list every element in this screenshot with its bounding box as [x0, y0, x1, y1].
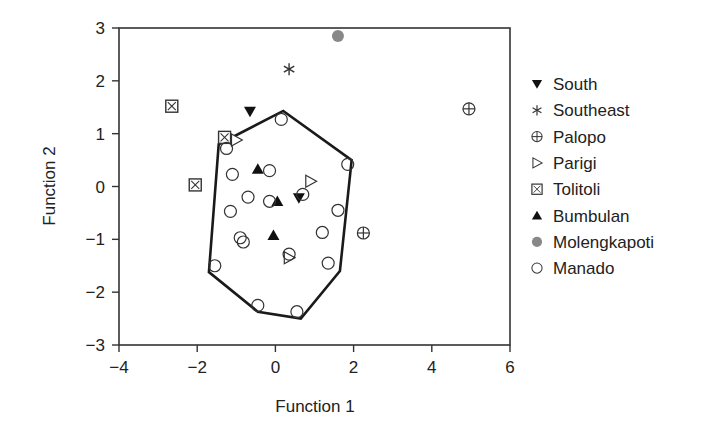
point-south — [244, 107, 256, 118]
legend-item-southeast: Southeast — [533, 101, 630, 120]
legend-label: Parigi — [553, 154, 596, 173]
x-tick-label: −2 — [188, 358, 207, 377]
legend-label: Manado — [553, 259, 614, 278]
point-palopo — [357, 227, 369, 239]
legend-label: Molengkapoti — [553, 233, 654, 252]
x-tick-label: 0 — [271, 358, 280, 377]
point-tolitoli — [166, 100, 178, 112]
point-bumbulan — [252, 163, 264, 174]
y-tick-label: −3 — [86, 336, 105, 355]
manado-marker-icon — [532, 263, 542, 273]
legend-item-parigi: Parigi — [533, 154, 597, 173]
plot-area-border — [119, 28, 510, 345]
y-tick-label: 2 — [96, 72, 105, 91]
legend-item-south: South — [532, 75, 598, 94]
point-manado — [316, 226, 328, 238]
legend-label: Tolitoli — [553, 180, 600, 199]
legend-label: Palopo — [553, 128, 606, 147]
point-molengkapoti — [332, 30, 344, 42]
point-manado — [264, 195, 276, 207]
legend-item-molengkapoti: Molengkapoti — [532, 233, 654, 252]
y-tick-label: 3 — [96, 19, 105, 38]
y-tick-label: 0 — [96, 178, 105, 197]
south-marker-icon — [532, 80, 542, 89]
point-parigi — [306, 175, 317, 187]
southeast-marker-icon — [533, 105, 542, 115]
x-tick-label: −4 — [109, 358, 128, 377]
legend-item-manado: Manado — [532, 259, 615, 278]
point-manado — [252, 299, 264, 311]
point-southeast — [284, 63, 294, 75]
y-axis-label: Function 2 — [40, 146, 59, 225]
legend-label: Southeast — [553, 101, 630, 120]
plot-frame — [119, 28, 510, 345]
parigi-marker-icon — [533, 158, 542, 168]
point-manado — [322, 257, 334, 269]
legend: SouthSoutheastPalopoParigiTolitoliBumbul… — [532, 75, 654, 278]
point-manado — [226, 168, 238, 180]
x-tick-label: 2 — [349, 358, 358, 377]
x-tick-label: 4 — [427, 358, 436, 377]
point-manado — [332, 204, 344, 216]
point-manado — [224, 205, 236, 217]
legend-label: Bumbulan — [553, 207, 630, 226]
point-palopo — [463, 103, 475, 115]
point-manado — [264, 165, 276, 177]
point-manado — [221, 142, 233, 154]
y-tick-label: −1 — [86, 230, 105, 249]
point-manado — [242, 191, 254, 203]
point-bumbulan — [267, 229, 279, 240]
x-axis-label: Function 1 — [275, 397, 354, 416]
tolitoli-marker-icon — [532, 184, 542, 194]
legend-label: South — [553, 75, 597, 94]
y-tick-label: −2 — [86, 283, 105, 302]
legend-item-bumbulan: Bumbulan — [532, 207, 630, 226]
bumbulan-marker-icon — [532, 211, 542, 220]
legend-item-palopo: Palopo — [532, 128, 606, 147]
scatter-chart: −4−20246−3−2−10123 Function 1 Function 2… — [0, 0, 710, 428]
point-manado — [234, 232, 246, 244]
palopo-marker-icon — [532, 132, 542, 142]
point-manado — [275, 113, 287, 125]
legend-item-tolitoli: Tolitoli — [532, 180, 600, 199]
point-tolitoli — [189, 179, 201, 191]
x-tick-label: 6 — [505, 358, 514, 377]
point-tolitoli — [219, 131, 231, 143]
molengkapoti-marker-icon — [532, 237, 542, 247]
point-manado — [291, 306, 303, 318]
point-manado — [237, 236, 249, 248]
y-tick-label: 1 — [96, 125, 105, 144]
